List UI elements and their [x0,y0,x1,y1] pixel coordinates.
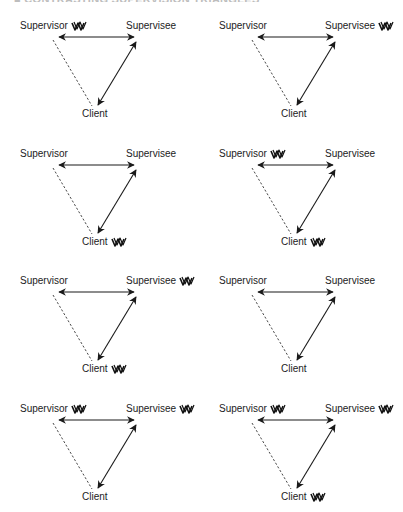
supervision-triangle-5: Supervisor Supervisee Client [10,270,200,380]
supervisee-node: Supervisee [325,148,375,160]
supervision-triangle-4: Supervisor Supervisee Client [209,143,399,253]
supervisee-client-arrow [297,425,335,488]
supervisee-node: Supervisee [126,148,176,160]
supervisee-client-arrow [98,42,136,105]
client-node: Client [82,236,127,248]
supervisee-label: Supervisee [126,148,176,160]
supervisee-label: Supervisee [126,275,176,287]
client-node: Client [281,108,307,120]
client-node: Client [82,491,108,503]
supervisee-label: Supervisee [325,148,375,160]
client-label: Client [82,236,108,248]
supervision-triangle-1: Supervisor Supervisee Client [10,15,200,125]
supervisor-node: Supervisor [20,403,87,415]
client-label: Client [281,491,307,503]
supervision-triangle-3: Supervisor Supervisee Client [10,143,200,253]
supervisor-label: Supervisor [219,275,267,287]
supervisee-label: Supervisee [325,275,375,287]
supervisor-label: Supervisor [20,148,68,160]
supervisor-label: Supervisor [219,148,267,160]
client-node: Client [281,491,326,503]
supervisee-label: Supervisee [325,20,375,32]
supervisee-node: Supervisee [325,403,394,415]
tension-zigzag-icon [71,21,87,31]
supervisor-node: Supervisor [219,20,267,32]
tension-zigzag-icon [111,364,127,374]
supervisee-label: Supervisee [126,403,176,415]
supervisor-node: Supervisor [219,403,286,415]
supervisor-client-dashed-line [252,168,291,234]
supervision-triangle-8: Supervisor Supervisee Client [209,398,399,508]
client-node: Client [281,236,326,248]
client-node: Client [281,363,307,375]
tension-zigzag-icon [378,404,394,414]
client-label: Client [82,363,108,375]
tension-zigzag-icon [71,404,87,414]
client-node: Client [82,108,108,120]
supervisee-client-arrow [98,297,136,360]
supervisee-node: Supervisee [126,275,195,287]
supervisee-client-arrow [297,297,335,360]
supervision-triangle-7: Supervisor Supervisee Client [10,398,200,508]
tension-zigzag-icon [378,21,394,31]
tension-zigzag-icon [310,492,326,502]
supervisor-node: Supervisor [219,275,267,287]
supervisor-client-dashed-line [53,423,92,489]
supervisor-client-dashed-line [53,168,92,234]
supervisor-label: Supervisor [219,20,267,32]
supervisee-node: Supervisee [325,275,375,287]
supervisor-client-dashed-line [252,423,291,489]
tension-zigzag-icon [179,404,195,414]
tension-zigzag-icon [179,276,195,286]
supervisee-label: Supervisee [126,20,176,32]
client-label: Client [82,491,108,503]
supervisee-client-arrow [98,425,136,488]
supervisee-node: Supervisee [126,20,176,32]
client-label: Client [281,108,307,120]
supervisor-node: Supervisor [20,148,68,160]
supervisor-node: Supervisor [219,148,286,160]
client-node: Client [82,363,127,375]
supervisee-client-arrow [98,170,136,233]
tension-zigzag-icon [310,237,326,247]
supervision-triangle-2: Supervisor Supervisee Client [209,15,399,125]
client-label: Client [281,363,307,375]
supervisor-client-dashed-line [252,295,291,361]
supervisee-label: Supervisee [325,403,375,415]
supervisee-client-arrow [297,42,335,105]
section-heading: ■ CONTRASTING SUPERVISION TRIANGLES [14,0,314,2]
section-heading-text: ■ CONTRASTING SUPERVISION TRIANGLES [14,0,314,2]
client-label: Client [82,108,108,120]
supervisor-client-dashed-line [53,295,92,361]
supervision-triangle-6: Supervisor Supervisee Client [209,270,399,380]
supervisor-client-dashed-line [252,40,291,106]
supervisor-label: Supervisor [20,403,68,415]
tension-zigzag-icon [270,149,286,159]
supervisor-client-dashed-line [53,40,92,106]
supervisor-label: Supervisor [20,275,68,287]
tension-zigzag-icon [111,237,127,247]
supervisor-label: Supervisor [219,403,267,415]
supervisee-client-arrow [297,170,335,233]
client-label: Client [281,236,307,248]
tension-zigzag-icon [270,404,286,414]
supervisee-node: Supervisee [126,403,195,415]
supervisor-node: Supervisor [20,20,87,32]
supervisor-node: Supervisor [20,275,68,287]
supervisee-node: Supervisee [325,20,394,32]
supervisor-label: Supervisor [20,20,68,32]
